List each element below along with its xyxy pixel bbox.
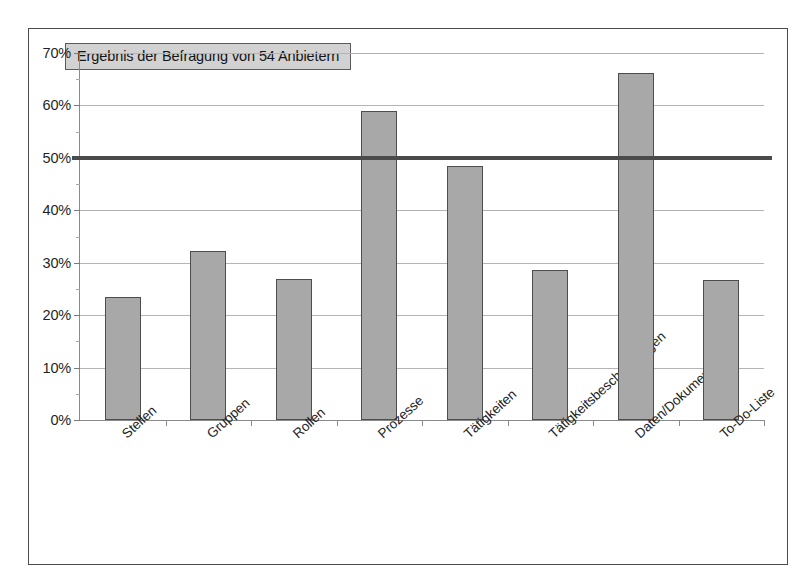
y-axis-label: 20% xyxy=(43,307,71,323)
y-axis-tick xyxy=(74,210,80,211)
y-axis-tick xyxy=(74,420,80,421)
bar-to-do-liste xyxy=(703,280,739,420)
plot-area: 0%10%20%30%40%50%60%70%StellenGruppenRol… xyxy=(79,53,764,421)
bar-rollen xyxy=(276,279,312,420)
y-axis-minor-tick xyxy=(76,79,80,80)
y-axis-minor-tick xyxy=(76,289,80,290)
x-axis-tick xyxy=(166,420,167,426)
y-axis-tick xyxy=(74,105,80,106)
gridline-60pct xyxy=(80,105,764,106)
y-axis-tick xyxy=(74,368,80,369)
y-axis-label: 40% xyxy=(43,202,71,218)
x-axis-tick xyxy=(337,420,338,426)
chart-outer-frame: Ergebnis der Befragung von 54 Anbietern … xyxy=(28,28,788,565)
bar-gruppen xyxy=(190,251,226,420)
x-axis-tick xyxy=(422,420,423,426)
y-axis-minor-tick xyxy=(76,184,80,185)
bar-tatigkeiten xyxy=(447,166,483,420)
x-axis-tick xyxy=(679,420,680,426)
y-axis-label: 60% xyxy=(43,97,71,113)
y-axis-label: 50% xyxy=(43,150,71,166)
y-axis-label: 30% xyxy=(43,255,71,271)
gridline-70pct xyxy=(80,53,764,54)
gridline-10pct xyxy=(80,368,764,369)
y-axis-minor-tick xyxy=(76,394,80,395)
gridline-40pct xyxy=(80,210,764,211)
y-axis-label: 70% xyxy=(43,45,71,61)
y-axis-minor-tick xyxy=(76,132,80,133)
bar-stellen xyxy=(105,297,141,420)
y-axis-label: 0% xyxy=(50,412,71,428)
reference-line-50-percent xyxy=(72,156,772,160)
x-axis-tick xyxy=(508,420,509,426)
y-axis-label: 10% xyxy=(43,360,71,376)
x-axis-tick xyxy=(593,420,594,426)
gridline-20pct xyxy=(80,315,764,316)
bar-tatigkeitsbeschreibungen xyxy=(532,270,568,420)
x-axis-tick xyxy=(251,420,252,426)
y-axis-tick xyxy=(74,53,80,54)
y-axis-tick xyxy=(74,263,80,264)
y-axis-minor-tick xyxy=(76,237,80,238)
y-axis-minor-tick xyxy=(76,341,80,342)
x-axis-tick xyxy=(764,420,765,426)
bar-daten-dokumente xyxy=(618,73,654,420)
y-axis-tick xyxy=(74,315,80,316)
gridline-30pct xyxy=(80,263,764,264)
